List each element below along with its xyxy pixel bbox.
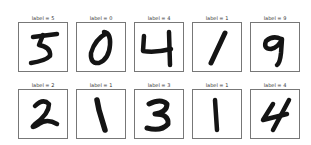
digit-image — [192, 89, 242, 139]
sample-title: label = 5 — [18, 15, 68, 21]
sample-title: label = 0 — [76, 15, 126, 21]
sample-title: label = 1 — [76, 82, 126, 88]
digit-4-icon — [251, 90, 299, 138]
digit-9-icon — [251, 23, 299, 71]
sample-title: label = 3 — [134, 82, 184, 88]
digit-1-icon — [193, 23, 241, 71]
sample-title: label = 4 — [134, 15, 184, 21]
digit-image — [134, 22, 184, 72]
digit-image — [76, 22, 126, 72]
digit-image — [76, 89, 126, 139]
digit-image — [192, 22, 242, 72]
digit-image — [18, 22, 68, 72]
digit-1-icon — [77, 90, 125, 138]
digit-4-icon — [135, 23, 183, 71]
sample-title: label = 1 — [192, 82, 242, 88]
digit-5-icon — [19, 23, 67, 71]
digit-image — [18, 89, 68, 139]
sample-title: label = 4 — [250, 82, 300, 88]
sample-title: label = 2 — [18, 82, 68, 88]
digit-image — [134, 89, 184, 139]
digit-1-icon — [193, 90, 241, 138]
digit-image — [250, 89, 300, 139]
sample-title: label = 9 — [250, 15, 300, 21]
digit-0-icon — [77, 23, 125, 71]
digit-3-icon — [135, 90, 183, 138]
digit-image — [250, 22, 300, 72]
digit-2-icon — [19, 90, 67, 138]
sample-title: label = 1 — [192, 15, 242, 21]
